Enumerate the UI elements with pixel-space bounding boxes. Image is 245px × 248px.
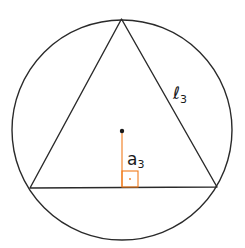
apothem-label: a3 [127,149,144,171]
side-label: ℓ3 [172,83,187,106]
equilateral-triangle [30,19,217,188]
inscribed-triangle-diagram: a3 ℓ3 [0,0,245,248]
center-point [120,129,124,133]
right-angle-dot [129,178,131,180]
